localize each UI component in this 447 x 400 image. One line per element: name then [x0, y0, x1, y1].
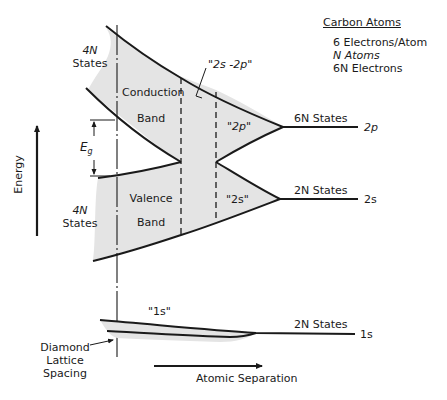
conduction-band-word: Band — [122, 112, 180, 125]
legend-line-atoms: N Atoms — [333, 49, 380, 62]
lower-states-label: 4N States — [62, 204, 98, 230]
hybrid-region-label: "2s -2p" — [208, 58, 252, 71]
level-2p-label: 2p — [364, 121, 378, 134]
lower-states-word: States — [62, 217, 98, 230]
lattice-line2: Lattice — [38, 354, 92, 367]
level-2s-states: 2N States — [294, 184, 348, 197]
lattice-pointer-arrow — [90, 340, 113, 345]
lower-states-count: 4N — [62, 204, 98, 217]
valence-band-word: Band — [122, 216, 180, 229]
legend-title-text: Carbon Atoms — [323, 16, 401, 29]
upper-states-word: States — [72, 57, 108, 70]
level-2p-states: 6N States — [294, 112, 348, 125]
level-1s-label: 1s — [360, 328, 373, 341]
lattice-line1: Diamond — [38, 341, 92, 354]
conduction-word: Conduction — [122, 86, 180, 99]
valence-word: Valence — [122, 192, 180, 205]
level-2s-label: 2s — [364, 193, 377, 206]
level-1s-states: 2N States — [294, 318, 348, 331]
one-s-region-label: "1s" — [148, 305, 171, 318]
energy-axis-label: Energy — [12, 155, 25, 195]
band-gap-label: Eg — [80, 141, 93, 158]
upper-states-count: 4N — [72, 44, 108, 57]
legend-title: Carbon Atoms — [323, 16, 401, 29]
valence-band-label: Valence Band — [122, 192, 180, 229]
legend-line-electrons-per-atom: 6 Electrons/Atom — [333, 36, 427, 49]
lattice-line3: Spacing — [38, 367, 92, 380]
legend-line-electrons: 6N Electrons — [333, 62, 403, 75]
conduction-band-label: Conduction Band — [122, 86, 180, 125]
upper-states-label: 4N States — [72, 44, 108, 70]
separation-axis-label: Atomic Separation — [196, 372, 298, 385]
lattice-spacing-label: Diamond Lattice Spacing — [38, 341, 92, 380]
s-region-label: "2s" — [226, 193, 249, 206]
p-region-label: "2p" — [227, 120, 251, 133]
